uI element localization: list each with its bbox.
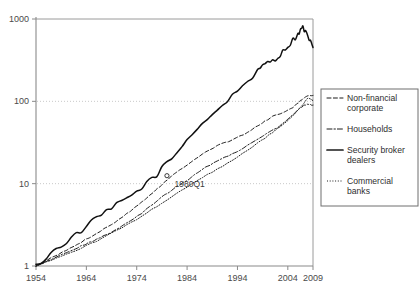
x-tick-label-1994: 1994 xyxy=(227,273,247,283)
legend-item-non-financial-corporate-label-cont: corporate xyxy=(347,103,384,113)
y-tick-label-10: 10 xyxy=(19,179,29,189)
chart-svg: 1000100101 1954196419741984199420042009 … xyxy=(0,0,420,300)
legend-item-commercial-banks-label: Commercial xyxy=(347,176,393,186)
gridlines-group xyxy=(37,101,313,183)
x-tick-label-1954: 1954 xyxy=(26,273,46,283)
legend-item-security-broker-dealers-label-cont: dealers xyxy=(347,155,375,165)
data-series-group xyxy=(36,26,313,266)
y-axis-ticks: 1000100101 xyxy=(9,14,36,271)
figure-canvas: 1000100101 1954196419741984199420042009 … xyxy=(0,0,420,300)
x-tick-label-2009: 2009 xyxy=(303,273,323,283)
x-axis-ticks: 1954196419741984199420042009 xyxy=(26,266,323,283)
annotation-label-0: 1980Q1 xyxy=(175,179,206,189)
legend-item-non-financial-corporate-label: Non-financial xyxy=(347,93,397,103)
y-tick-label-1: 1 xyxy=(24,261,29,271)
chart-legend: Non-financialcorporateHouseholdsSecurity… xyxy=(321,89,418,206)
x-tick-label-2004: 2004 xyxy=(278,273,298,283)
x-tick-label-1964: 1964 xyxy=(76,273,96,283)
annotation-marker-0 xyxy=(165,174,169,178)
legend-item-households-label: Households xyxy=(347,124,392,134)
y-tick-label-1000: 1000 xyxy=(9,14,29,24)
x-tick-label-1984: 1984 xyxy=(177,273,197,283)
legend-item-commercial-banks-label-cont: banks xyxy=(347,186,370,196)
y-tick-label-100: 100 xyxy=(14,96,29,106)
series-line-security-broker-dealers xyxy=(36,26,313,265)
legend-item-security-broker-dealers-label: Security broker xyxy=(347,145,405,155)
x-tick-label-1974: 1974 xyxy=(127,273,147,283)
chart-figure: 1000100101 1954196419741984199420042009 … xyxy=(0,0,420,300)
